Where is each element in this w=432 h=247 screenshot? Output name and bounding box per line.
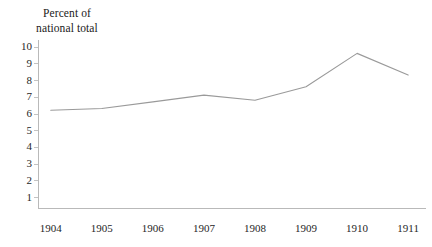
line-chart-figure: Percent of national total 12345678910 19… [0,0,432,247]
data-series-layer [0,0,432,247]
series-line-percent-of-national-total [51,53,408,110]
